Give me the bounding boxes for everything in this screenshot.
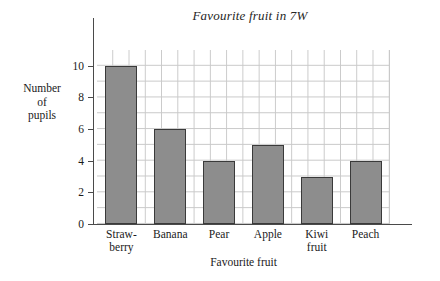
y-axis-tick-label-2: 2: [54, 186, 84, 198]
x-axis-category-label: Pear: [195, 228, 244, 241]
y-axis-tick-labels: 0246810: [52, 0, 84, 281]
x-axis-category-label: Apple: [244, 228, 293, 241]
y-axis-tick-label-10: 10: [54, 60, 84, 72]
y-axis-tick-6: [88, 129, 93, 130]
plot-area: [97, 50, 390, 224]
x-axis-category-label: Banana: [146, 228, 195, 241]
bar: [105, 66, 137, 224]
x-axis-category-label: Kiwi fruit: [292, 228, 341, 254]
y-axis-tick-label-4: 4: [54, 155, 84, 167]
bar: [252, 145, 284, 224]
y-axis-tick-0: [88, 224, 93, 225]
y-axis-tick-10: [88, 66, 93, 67]
bar: [203, 161, 235, 224]
y-axis-title: Number of pupils: [6, 82, 78, 123]
y-axis-line: [93, 18, 94, 225]
bar: [154, 129, 186, 224]
x-axis-title: Favourite fruit: [97, 256, 390, 268]
x-axis-category-label: Peach: [341, 228, 390, 241]
bar-chart-figure: Favourite fruit in 7W 0246810 Number of …: [0, 0, 440, 281]
x-axis-category-label: Straw- berry: [97, 228, 146, 254]
y-axis-tick-2: [88, 192, 93, 193]
y-axis-tick-8: [88, 97, 93, 98]
bar: [350, 161, 382, 224]
y-axis-tick-label-0: 0: [54, 218, 84, 230]
y-axis-tick-label-6: 6: [54, 123, 84, 135]
chart-title: Favourite fruit in 7W: [140, 8, 360, 24]
bar: [301, 177, 333, 224]
y-axis-tick-4: [88, 161, 93, 162]
